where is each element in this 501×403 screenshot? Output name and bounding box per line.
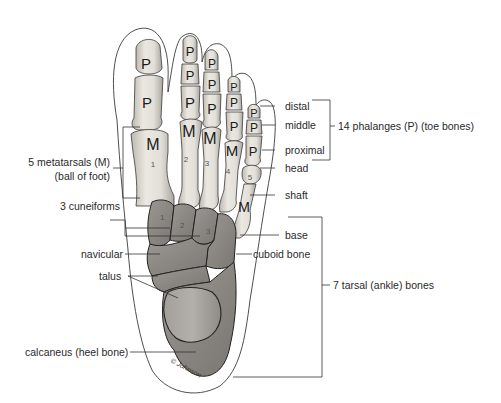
- svg-text:5: 5: [248, 173, 253, 182]
- svg-text:M: M: [203, 130, 216, 147]
- letter-p: P: [142, 94, 152, 111]
- label-base: base: [285, 229, 308, 241]
- svg-text:P: P: [186, 68, 195, 83]
- svg-text:P: P: [230, 96, 238, 110]
- toe-2: P P P M 2: [179, 36, 202, 208]
- svg-text:P: P: [208, 77, 217, 92]
- svg-text:P: P: [208, 57, 216, 71]
- svg-text:3: 3: [205, 159, 210, 168]
- svg-text:1: 1: [151, 160, 156, 169]
- svg-text:P: P: [250, 107, 257, 119]
- svg-text:1: 1: [160, 213, 165, 222]
- svg-text:M: M: [238, 199, 250, 215]
- svg-text:P: P: [230, 119, 239, 134]
- label-middle: middle: [285, 119, 316, 131]
- svg-text:2: 2: [184, 155, 189, 164]
- label-talus: talus: [99, 270, 121, 282]
- label-phalanges-group: 14 phalanges (P) (toe bones): [338, 120, 474, 132]
- label-tarsals-group: 7 tarsal (ankle) bones: [333, 279, 434, 291]
- label-shaft: shaft: [285, 189, 308, 201]
- svg-text:P: P: [249, 144, 258, 159]
- label-metatarsals-subtitle: (ball of foot): [22, 170, 110, 182]
- tarsal-bones: 1 2 3: [147, 200, 236, 376]
- svg-text:P: P: [207, 101, 216, 117]
- svg-text:P: P: [250, 121, 258, 135]
- svg-text:P: P: [230, 81, 237, 93]
- label-cuneiforms: 3 cuneiforms: [60, 200, 120, 212]
- svg-text:3: 3: [206, 227, 211, 236]
- label-navicular: navicular: [81, 248, 123, 260]
- label-calcaneus: calcaneus (heel bone): [25, 346, 128, 358]
- letter-p: P: [141, 55, 151, 72]
- svg-text:P: P: [186, 44, 195, 59]
- svg-text:P: P: [185, 94, 195, 111]
- svg-text:M: M: [182, 123, 195, 140]
- svg-text:M: M: [226, 142, 239, 159]
- toe-3: P P P M 3: [199, 50, 221, 210]
- toe-4: P P P M 4: [219, 76, 243, 212]
- svg-text:4: 4: [226, 167, 231, 176]
- label-proximal: proximal: [285, 144, 325, 156]
- label-metatarsals: 5 metatarsals (M): [22, 156, 110, 168]
- label-distal: distal: [285, 100, 310, 112]
- svg-text:2: 2: [180, 221, 185, 230]
- label-head: head: [285, 162, 308, 174]
- label-cuboid-bone: cuboid bone: [253, 248, 310, 260]
- letter-m: M: [146, 136, 159, 153]
